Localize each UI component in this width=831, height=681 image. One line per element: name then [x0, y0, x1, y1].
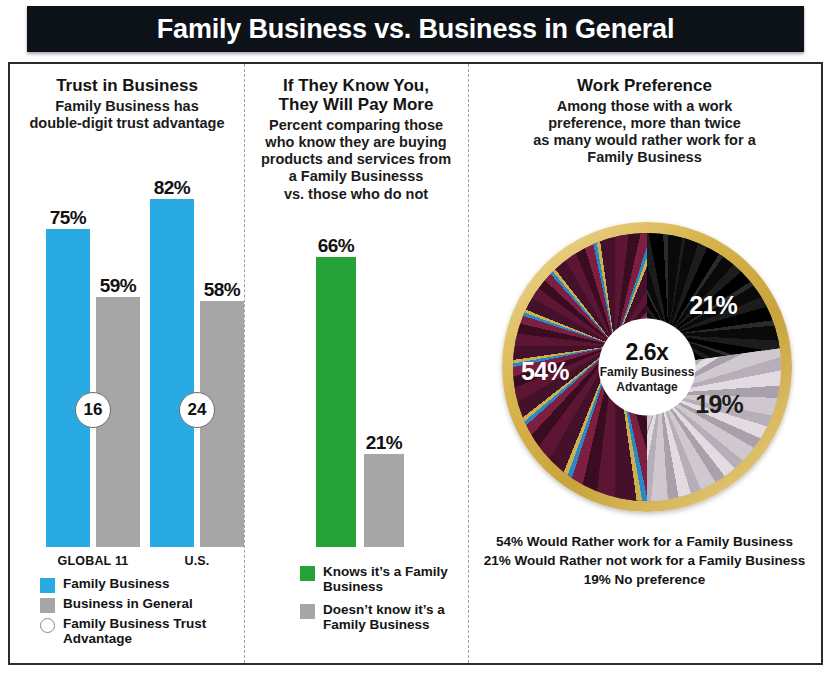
page-title: Family Business vs. Business in General [157, 14, 674, 45]
pie-center-caption-line-1: Family Business [600, 365, 695, 378]
pay-heading-line-1: If They Know You, [244, 76, 468, 95]
work-subtitle-line-3: as many would rather work for a [476, 132, 813, 149]
trust-group-label-us: U.S. [150, 554, 244, 568]
work-subtitle-line-2: preference, more than twice [476, 115, 813, 132]
pay-legend-label-knows: Knows it’s a Family Business [323, 564, 455, 594]
pay-panel-heading: If They Know You, They Will Pay More [244, 64, 468, 114]
green-square-icon [300, 566, 315, 581]
trust-legend-item-general: Business in General [40, 596, 245, 613]
blue-square-icon [40, 578, 55, 593]
trust-value-us-general: 58% [200, 279, 244, 301]
trust-bar-chart: 75% 59% 16 GLOBAL 11 82% 58% 24 U.S. [10, 184, 244, 547]
work-subtitle-line-4: Family Business [476, 149, 813, 166]
work-legend-pct-not-family: 21% [484, 553, 511, 568]
pie-label-not-family-business: 21% [689, 291, 737, 320]
pie-center-caption-line-2: Advantage [616, 381, 677, 394]
pay-legend-item-knows: Knows it’s a Family Business [300, 564, 455, 594]
work-legend-item-no-preference: 19% No preference [468, 570, 821, 589]
trust-group-label-global: GLOBAL 11 [46, 554, 140, 568]
pie-center-multiplier: 2.6x [626, 340, 669, 363]
trust-panel-subtitle: Family Business has double-digit trust a… [10, 98, 244, 132]
pay-subtitle-line-3: products and services from [252, 151, 460, 168]
pay-legend-label-doesnt-know: Doesn’t know it’s a Family Business [323, 602, 455, 632]
pay-subtitle-line-1: Percent comparing those [252, 117, 460, 134]
work-legend-text-family: Would Rather work for a Family Business [523, 534, 793, 549]
trust-value-global-family: 75% [46, 207, 90, 229]
trust-bar-global-general: 59% [96, 184, 140, 547]
pay-rect-knows [316, 257, 356, 547]
pay-rect-doesnt-know [364, 454, 404, 547]
trust-legend: Family Business Business in General Fami… [40, 576, 245, 649]
work-legend-item-not-family: 21% Would Rather not work for a Family B… [468, 551, 821, 570]
work-legend-pct-no-preference: 19% [584, 572, 611, 587]
page-title-bar: Family Business vs. Business in General [27, 6, 804, 52]
trust-subtitle-line-1: Family Business has [18, 98, 236, 115]
trust-subtitle-line-2: double-digit trust advantage [18, 115, 236, 132]
trust-advantage-badge-global: 16 [75, 392, 111, 428]
pay-legend-item-doesnt-know: Doesn’t know it’s a Family Business [300, 602, 455, 632]
work-panel-heading: Work Preference [468, 64, 821, 95]
pay-legend: Knows it’s a Family Business Doesn’t kno… [300, 564, 455, 635]
trust-legend-label-family: Family Business [63, 576, 170, 591]
work-legend-text-no-preference: No preference [611, 572, 706, 587]
work-preference-pie-chart: 21% 19% 54% 2.6x Family Business Advanta… [502, 222, 792, 512]
work-panel-subtitle: Among those with a work preference, more… [468, 98, 821, 166]
trust-legend-label-advantage: Family Business Trust Advantage [63, 616, 245, 646]
trust-legend-item-advantage: Family Business Trust Advantage [40, 616, 245, 646]
trust-rect-global-family [46, 229, 90, 547]
infographic-frame: Trust in Business Family Business has do… [8, 62, 823, 665]
work-legend-pct-family: 54% [496, 534, 523, 549]
pie-center-callout: 2.6x Family Business Advantage [599, 319, 696, 416]
white-circle-icon [40, 618, 55, 633]
gray-square-icon [40, 598, 55, 613]
trust-panel-heading: Trust in Business [10, 64, 244, 95]
pay-value-doesnt-know: 21% [364, 432, 404, 454]
pay-bar-knows: 66% [316, 184, 356, 547]
panel-work-preference: Work Preference Among those with a work … [468, 64, 821, 663]
work-legend-item-family: 54% Would Rather work for a Family Busin… [468, 532, 821, 551]
trust-bar-global-family: 75% [46, 184, 90, 547]
pay-bar-chart: 66% 21% [244, 184, 468, 547]
pay-subtitle-line-4: a Family Businesss [252, 168, 460, 185]
trust-value-us-family: 82% [150, 177, 194, 199]
pie-disc: 21% 19% 54% 2.6x Family Business Advanta… [513, 233, 781, 501]
panel-pay-more: If They Know You, They Will Pay More Per… [244, 64, 468, 663]
pay-bar-doesnt-know: 21% [364, 184, 404, 547]
panel-trust-in-business: Trust in Business Family Business has do… [10, 64, 244, 663]
pay-subtitle-line-2: who know they are buying [252, 134, 460, 151]
trust-value-global-general: 59% [96, 275, 140, 297]
trust-bar-us-general: 58% [200, 184, 244, 547]
trust-rect-us-family [150, 199, 194, 547]
work-legend: 54% Would Rather work for a Family Busin… [468, 532, 821, 589]
pay-heading-line-2: They Will Pay More [244, 95, 468, 114]
trust-advantage-badge-us: 24 [179, 392, 215, 428]
pie-label-no-preference: 19% [695, 390, 743, 419]
gray-square-icon [300, 604, 315, 619]
pay-value-knows: 66% [316, 235, 356, 257]
trust-bar-us-family: 82% [150, 184, 194, 547]
pie-label-family-business: 54% [521, 357, 569, 386]
trust-legend-item-family: Family Business [40, 576, 245, 593]
trust-legend-label-general: Business in General [63, 596, 193, 611]
work-legend-text-not-family: Would Rather not work for a Family Busin… [511, 553, 806, 568]
work-subtitle-line-1: Among those with a work [476, 98, 813, 115]
